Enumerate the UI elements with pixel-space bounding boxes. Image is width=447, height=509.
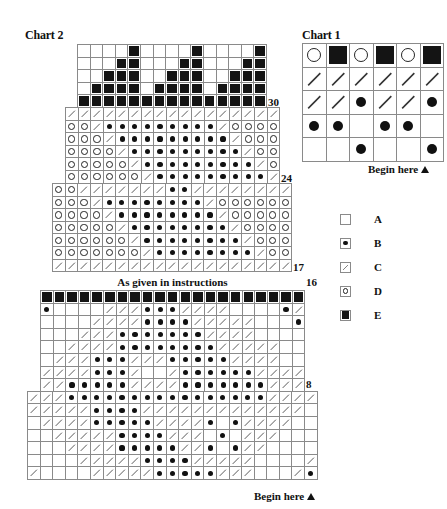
open-circle-icon — [257, 237, 264, 244]
chart-cell — [166, 260, 179, 273]
slash-icon — [230, 108, 242, 120]
slash-icon — [91, 341, 103, 353]
chart-cell — [116, 184, 129, 197]
chart-cell — [243, 329, 256, 342]
chart-cell — [242, 209, 255, 222]
chart-cell — [129, 417, 142, 430]
filled-dot-icon — [157, 445, 162, 450]
chart-cell — [192, 171, 205, 184]
chart-cell — [128, 58, 141, 71]
slash-icon — [205, 304, 217, 316]
begin-here-text: Begin here — [368, 163, 418, 175]
open-circle-icon — [68, 224, 75, 231]
filled-dot-icon — [208, 162, 213, 167]
chart-cell — [129, 304, 142, 317]
slash-icon — [53, 430, 65, 442]
slash-icon — [142, 354, 154, 366]
slash-icon — [280, 417, 292, 429]
chart-cell — [141, 404, 154, 417]
chart-cell — [142, 354, 155, 367]
open-circle-icon — [282, 237, 289, 244]
open-circle-icon — [282, 249, 289, 256]
chart-cell — [53, 209, 66, 222]
chart-cell — [91, 222, 104, 235]
chart-cell — [91, 430, 104, 443]
legend-swatch — [340, 262, 351, 273]
filled-dot-icon — [144, 212, 149, 217]
filled-dot-icon — [170, 471, 175, 476]
filled-dot-icon — [170, 238, 175, 243]
chart-cell — [167, 316, 180, 329]
chart-cell — [217, 197, 230, 210]
chart-cell — [154, 392, 167, 405]
filled-dot-icon — [195, 357, 200, 362]
chart-cell — [179, 171, 192, 184]
chart-cell — [267, 209, 280, 222]
chart-cell — [129, 133, 142, 146]
chart-cell — [116, 70, 129, 83]
slash-icon — [280, 260, 292, 272]
chart-cell — [205, 316, 218, 329]
chart-cell — [242, 247, 255, 260]
chart-cell — [91, 392, 104, 405]
chart-cell — [280, 354, 293, 367]
chart-cell — [255, 222, 268, 235]
chart-cell — [217, 404, 230, 417]
slash-icon — [293, 304, 305, 316]
chart-cell — [255, 404, 268, 417]
filled-dot-icon — [182, 200, 187, 205]
filled-square-icon — [180, 84, 190, 94]
chart-cell — [255, 133, 268, 146]
filled-dot-icon — [145, 433, 150, 438]
slash-icon — [242, 442, 254, 454]
slash-icon — [91, 121, 103, 133]
slash-icon — [217, 455, 229, 467]
chart-cell — [129, 184, 142, 197]
chart-cell — [129, 260, 142, 273]
slash-icon — [116, 455, 128, 467]
filled-square-icon — [230, 84, 240, 94]
slash-icon — [129, 108, 141, 120]
slash-icon — [255, 108, 267, 120]
chart-cell — [267, 455, 280, 468]
filled-dot-icon — [195, 225, 200, 230]
filled-dot-icon — [208, 471, 213, 476]
slash-icon — [167, 430, 179, 442]
open-circle-icon — [244, 199, 251, 206]
filled-dot-icon — [132, 200, 137, 205]
chart-cell — [167, 392, 180, 405]
filled-dot-icon — [195, 136, 200, 141]
filled-dot-icon — [132, 212, 137, 217]
chart-cell — [267, 430, 280, 443]
chart-cell — [255, 247, 268, 260]
chart-cell — [192, 222, 205, 235]
chart-cell — [268, 108, 281, 121]
chart-cell — [79, 146, 92, 159]
slash-icon — [166, 260, 178, 272]
chart-cell — [268, 121, 281, 134]
slash-icon — [116, 260, 128, 272]
chart-cell — [421, 44, 445, 68]
slash-icon — [167, 404, 179, 416]
filled-dot-icon — [296, 319, 301, 324]
chart-cell — [255, 430, 268, 443]
filled-dot-icon — [170, 458, 175, 463]
chart-cell — [229, 234, 242, 247]
filled-dot-icon — [157, 238, 162, 243]
filled-dot-icon — [246, 370, 251, 375]
chart-cell — [230, 442, 243, 455]
chart-cell — [91, 197, 104, 210]
chart-cell — [280, 417, 293, 430]
chart-cell — [267, 184, 280, 197]
slash-icon — [217, 404, 229, 416]
chart-cell — [129, 354, 142, 367]
slash-icon — [243, 329, 255, 341]
chart-cell — [350, 44, 374, 68]
chart-cell — [230, 329, 243, 342]
chart-cell — [179, 108, 192, 121]
chart-cell — [205, 304, 218, 317]
chart-cell — [397, 115, 421, 139]
slash-icon — [78, 260, 90, 272]
chart-cell — [154, 158, 167, 171]
chart-cell — [167, 367, 180, 380]
